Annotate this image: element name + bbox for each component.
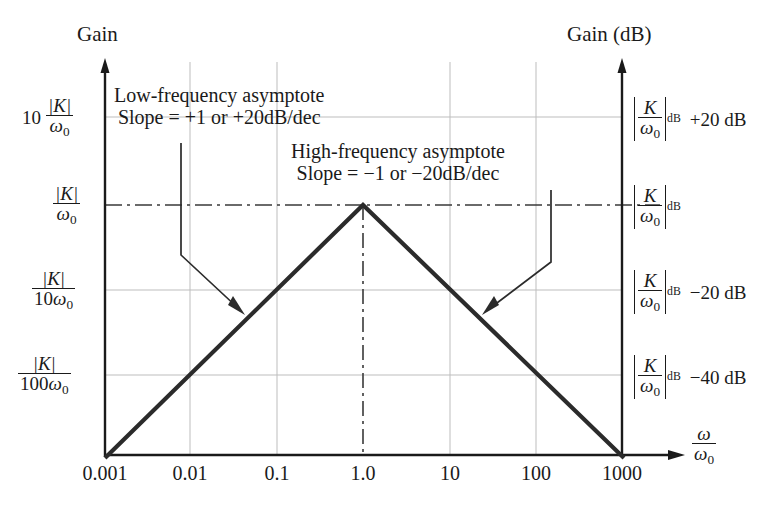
y-tick-left-0-prefix: 10 bbox=[22, 108, 41, 127]
plot-canvas bbox=[0, 0, 784, 519]
y-tick-left-2-den: ω bbox=[53, 288, 66, 309]
y-tick-right-2: K ω0 dB −20 dB bbox=[634, 270, 746, 314]
y-tick-right-3: K ω0 dB −40 dB bbox=[634, 355, 746, 399]
high-frequency-annotation-line1: High-frequency asymptote bbox=[291, 140, 505, 162]
y-tick-left-2-den-sub: 0 bbox=[66, 297, 73, 312]
y-tick-right-1-num: K bbox=[638, 186, 662, 205]
y-tick-right-0-num: K bbox=[638, 98, 662, 117]
low-frequency-annotation-line2: Slope = +1 or +20dB/dec bbox=[114, 106, 324, 128]
y-tick-left-1-den: ω bbox=[57, 203, 70, 224]
x-axis-arrow bbox=[668, 450, 685, 460]
right-axis-title: Gain (dB) bbox=[567, 24, 652, 45]
x-tick-2: 0.1 bbox=[265, 463, 290, 483]
x-tick-4: 10 bbox=[440, 463, 460, 483]
y-tick-left-3-den: ω bbox=[49, 373, 62, 394]
high-frequency-arrowhead bbox=[482, 296, 499, 315]
y-tick-left-2: |K| 10ω0 bbox=[27, 269, 75, 311]
y-tick-right-0-offset: +20 dB bbox=[690, 110, 747, 129]
y-tick-left-2-num: |K| bbox=[32, 269, 75, 288]
y-tick-right-2-unit: dB bbox=[667, 286, 681, 298]
y-tick-right-3-den: ω bbox=[640, 375, 653, 396]
y-tick-left-3: |K| 100ω0 bbox=[13, 354, 71, 396]
y-tick-left-0: 10 |K| ω0 bbox=[22, 96, 73, 138]
y-tick-left-1-num: |K| bbox=[53, 184, 80, 203]
y-tick-left-1: |K| ω0 bbox=[48, 184, 80, 226]
y-tick-right-3-den-sub: 0 bbox=[653, 384, 660, 399]
right-y-axis-arrow bbox=[618, 58, 627, 73]
y-tick-left-0-den-sub: 0 bbox=[63, 124, 70, 139]
y-tick-right-0-unit: dB bbox=[667, 113, 681, 125]
x-tick-5: 100 bbox=[521, 463, 551, 483]
asymptote-curve bbox=[105, 205, 624, 458]
x-tick-6: 1000 bbox=[602, 463, 642, 483]
y-tick-right-0-den: ω bbox=[640, 117, 653, 138]
y-tick-left-1-den-sub: 0 bbox=[70, 212, 77, 227]
y-tick-left-3-den-coef: 100 bbox=[20, 373, 49, 394]
low-frequency-annotation-line1: Low-frequency asymptote bbox=[114, 84, 324, 106]
left-axis-title: Gain bbox=[77, 24, 118, 45]
x-tick-0: 0.001 bbox=[83, 463, 128, 483]
y-tick-right-2-den-sub: 0 bbox=[653, 299, 660, 314]
y-tick-left-3-den-sub: 0 bbox=[62, 382, 69, 397]
left-y-axis-arrow bbox=[101, 58, 110, 73]
y-tick-left-0-den: ω bbox=[50, 115, 63, 136]
y-tick-left-0-num: |K| bbox=[46, 96, 73, 115]
x-tick-1: 0.01 bbox=[173, 463, 208, 483]
y-tick-right-0-den-sub: 0 bbox=[653, 126, 660, 141]
y-tick-right-1-unit: dB bbox=[667, 201, 681, 213]
y-tick-right-3-num: K bbox=[638, 356, 662, 375]
y-tick-left-2-den-coef: 10 bbox=[34, 288, 53, 309]
y-tick-right-3-unit: dB bbox=[667, 371, 681, 383]
x-axis-label-den-sub: 0 bbox=[707, 452, 714, 467]
low-frequency-arrowhead bbox=[228, 296, 245, 315]
y-tick-right-1: K ω0 dB bbox=[634, 185, 690, 229]
high-frequency-annotation-line2: Slope = −1 or −20dB/dec bbox=[291, 162, 505, 184]
x-axis-label: ω ω0 bbox=[692, 424, 716, 466]
x-axis-label-den: ω bbox=[694, 443, 707, 464]
y-tick-right-2-den: ω bbox=[640, 290, 653, 311]
high-frequency-leader bbox=[489, 190, 551, 309]
x-axis-label-num: ω bbox=[692, 424, 716, 443]
y-tick-left-3-num: |K| bbox=[18, 354, 71, 373]
y-tick-right-0: K ω0 dB +20 dB bbox=[634, 97, 746, 141]
high-frequency-asymptote-annotation: High-frequency asymptote Slope = −1 or −… bbox=[291, 140, 505, 185]
bode-plot-figure: Gain Gain (dB) ω ω0 10 |K| ω0 |K| ω0 |K|… bbox=[0, 0, 784, 519]
low-frequency-asymptote-annotation: Low-frequency asymptote Slope = +1 or +2… bbox=[114, 84, 324, 129]
y-tick-right-3-offset: −40 dB bbox=[690, 368, 747, 387]
y-tick-right-2-offset: −20 dB bbox=[690, 283, 747, 302]
x-tick-3: 1.0 bbox=[351, 463, 376, 483]
y-tick-right-1-den-sub: 0 bbox=[653, 214, 660, 229]
y-tick-right-1-den: ω bbox=[640, 205, 653, 226]
y-tick-right-2-num: K bbox=[638, 271, 662, 290]
